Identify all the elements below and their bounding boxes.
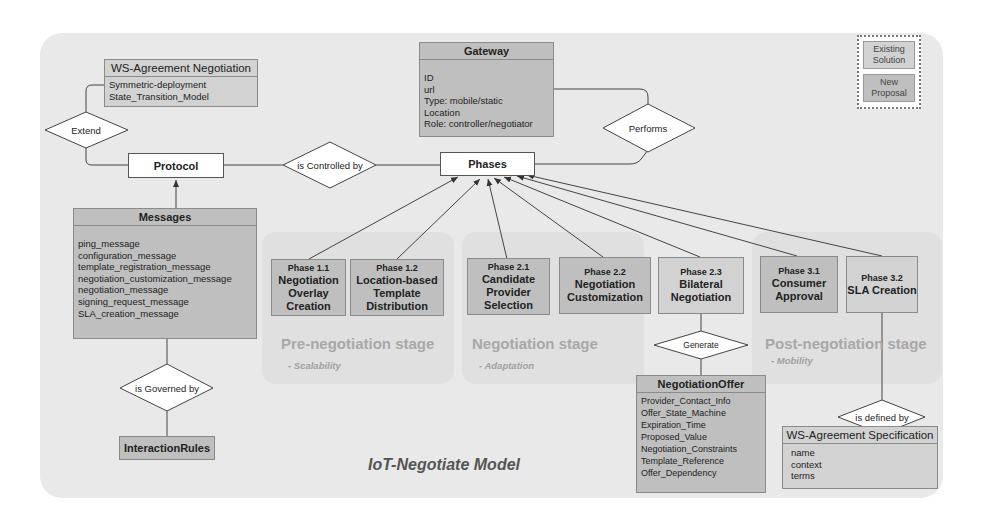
entity-gateway: Gateway ID url Type: mobile/static Locat… xyxy=(419,42,554,137)
phase-number: Phase 1.2 xyxy=(351,263,443,274)
phase-name: Negotiation Overlay Creation xyxy=(272,274,345,313)
entity-title: Gateway xyxy=(420,43,553,60)
attr: SLA_creation_message xyxy=(78,308,252,320)
entity-messages: Messages ping_message configuration_mess… xyxy=(73,208,257,339)
phase-name: Consumer Approval xyxy=(761,277,837,303)
attr: signing_request_message xyxy=(78,296,252,308)
entity-title: Messages xyxy=(74,209,256,226)
attr: negotiation_message xyxy=(78,284,252,296)
stage-title-negotiation: Negotiation stage xyxy=(472,335,598,352)
phase-number: Phase 2.1 xyxy=(468,262,549,273)
governed-relationship: is Governed by xyxy=(135,383,199,394)
entity-title: Protocol xyxy=(154,160,199,172)
stage-title-pre: Pre-negotiation stage xyxy=(281,335,434,352)
entity-ws-agreement-specification: WS-Agreement Specification name context … xyxy=(782,426,938,489)
phase-name: Location-based Template Distribution xyxy=(351,274,443,313)
attr: Proposed_Value xyxy=(641,431,761,443)
phase-name: Bilateral Negotiation xyxy=(659,278,743,304)
extend-relationship: Extend xyxy=(71,125,101,136)
stage-sub-pre: - Scalability xyxy=(288,360,341,371)
stage-title-post: Post-negotiation stage xyxy=(765,335,927,352)
phase-1-1: Phase 1.1 Negotiation Overlay Creation xyxy=(271,259,346,316)
entity-phases: Phases xyxy=(440,152,535,176)
generate-relationship: Generate xyxy=(683,340,718,350)
phase-number: Phase 1.1 xyxy=(272,263,345,274)
attr: ID xyxy=(424,72,549,84)
legend-existing: Existing Solution xyxy=(863,41,915,69)
entity-title: WS-Agreement Negotiation xyxy=(105,60,257,77)
attr: Role: controller/negotiator xyxy=(424,118,549,130)
attr: context xyxy=(791,459,933,471)
entity-interaction-rules: InteractionRules xyxy=(119,436,215,460)
phase-name: Negotiation Customization xyxy=(560,278,650,304)
entity-title: WS-Agreement Specification xyxy=(783,427,937,444)
attr: Negotiation_Constraints xyxy=(641,443,761,455)
phase-name: SLA Creation xyxy=(847,284,917,297)
entity-protocol: Protocol xyxy=(128,153,224,178)
attr: Expiration_Time xyxy=(641,419,761,431)
attr: ping_message xyxy=(78,238,252,250)
performs-relationship: Performs xyxy=(629,123,668,134)
attr: url xyxy=(424,84,549,96)
stage-sub-negotiation: - Adaptation xyxy=(479,360,534,371)
entity-title: Phases xyxy=(468,158,507,170)
entity-title: NegotiationOffer xyxy=(637,376,765,393)
controlled-relationship: is Controlled by xyxy=(297,160,362,171)
phase-3-1: Phase 3.1 Consumer Approval xyxy=(760,256,838,313)
attr: Symmetric-deployment xyxy=(109,79,253,91)
attr: Offer_State_Machine xyxy=(641,407,761,419)
attr: name xyxy=(791,447,933,459)
entity-title: InteractionRules xyxy=(124,442,210,454)
attr: Provider_Contact_Info xyxy=(641,395,761,407)
attr: configuration_message xyxy=(78,250,252,262)
attr: State_Transition_Model xyxy=(109,91,253,103)
phase-number: Phase 2.2 xyxy=(560,267,650,278)
phase-number: Phase 3.2 xyxy=(847,273,917,284)
phase-2-2: Phase 2.2 Negotiation Customization xyxy=(559,257,651,314)
attr: Type: mobile/static xyxy=(424,95,549,107)
entity-negotiation-offer: NegotiationOffer Provider_Contact_Info O… xyxy=(636,375,766,493)
legend: Existing Solution New Proposal xyxy=(857,35,921,109)
attr: Offer_Dependency xyxy=(641,467,761,479)
phase-name: Candidate Provider Selection xyxy=(468,273,549,312)
attr: template_registration_message xyxy=(78,261,252,273)
phase-2-1: Phase 2.1 Candidate Provider Selection xyxy=(467,258,550,315)
entity-ws-agreement-negotiation: WS-Agreement Negotiation Symmetric-deplo… xyxy=(104,59,258,107)
attr: Location xyxy=(424,107,549,119)
model-title: IoT-Negotiate Model xyxy=(368,456,520,474)
phase-number: Phase 2.3 xyxy=(659,267,743,278)
defined-relationship: is defined by xyxy=(855,412,908,423)
attr: Template_Reference xyxy=(641,455,761,467)
phase-1-2: Phase 1.2 Location-based Template Distri… xyxy=(350,259,444,316)
phase-3-2: Phase 3.2 SLA Creation xyxy=(846,256,918,313)
attr: negotiation_customization_message xyxy=(78,273,252,285)
legend-proposal: New Proposal xyxy=(863,74,915,102)
attr: terms xyxy=(791,470,933,482)
stage-sub-post: - Mobility xyxy=(771,355,813,366)
phase-2-3: Phase 2.3 Bilateral Negotiation xyxy=(658,257,744,314)
phase-number: Phase 3.1 xyxy=(761,266,837,277)
